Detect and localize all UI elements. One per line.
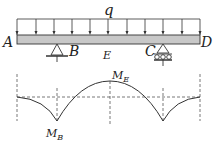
point-b-label: B — [68, 43, 79, 59]
moment-b-label: MB — [45, 127, 63, 142]
moment-curve — [17, 81, 200, 121]
point-d-label: D — [200, 34, 212, 50]
point-e-label: E — [102, 49, 111, 62]
load-label: q — [104, 1, 114, 19]
beam-diagram: q — [0, 0, 215, 142]
roller-support-c — [154, 44, 172, 66]
load-arrowheads — [16, 31, 202, 35]
pin-support-b — [46, 44, 68, 62]
point-a-label: A — [1, 34, 13, 50]
point-c-label: C — [145, 43, 156, 59]
moment-e-label: ME — [111, 69, 129, 84]
beam — [17, 35, 200, 44]
